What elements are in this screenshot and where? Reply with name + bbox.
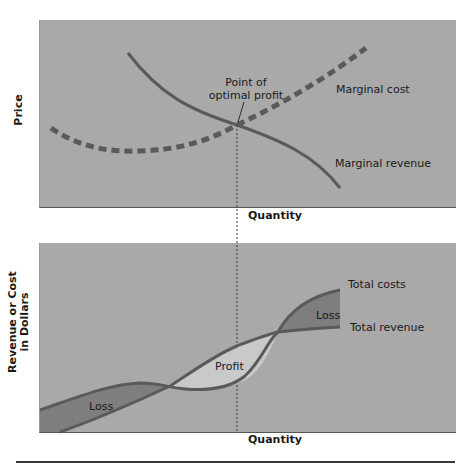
- bottom-rule-divider: [16, 461, 455, 463]
- bottom-quantity-axis-label: Quantity: [248, 433, 302, 446]
- total-costs-label: Total costs: [348, 278, 406, 291]
- total-costs-curve: [40, 290, 340, 410]
- marginal-cost-label: Marginal cost: [336, 83, 410, 96]
- optimal-profit-line-1: Point of: [206, 76, 286, 89]
- revenue-cost-axis-label: Revenue or Cost in Dollars: [7, 267, 31, 377]
- loss-left-label: Loss: [89, 400, 113, 413]
- price-axis-label: Price: [13, 85, 25, 135]
- optimal-pointer-line: [238, 102, 244, 122]
- chart-curves: [0, 0, 473, 468]
- optimal-profit-annotation: Point of optimal profit: [206, 76, 286, 102]
- loss-right-label: Loss: [316, 309, 340, 322]
- revenue-cost-axis-label-line-2: in Dollars: [19, 267, 31, 377]
- optimal-profit-line-2: optimal profit: [206, 89, 286, 102]
- top-quantity-axis-label: Quantity: [248, 209, 302, 222]
- total-revenue-label: Total revenue: [350, 321, 424, 334]
- marginal-revenue-curve: [128, 53, 340, 188]
- marginal-revenue-label: Marginal revenue: [335, 157, 431, 170]
- profit-label: Profit: [215, 360, 244, 373]
